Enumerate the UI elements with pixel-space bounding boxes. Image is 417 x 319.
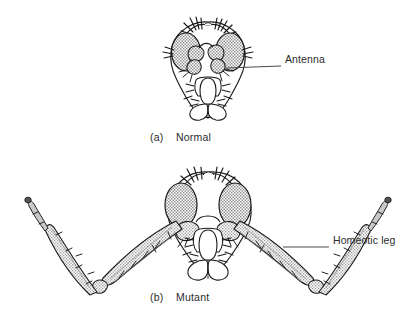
proboscis-mutant xyxy=(199,230,217,260)
panel-caption-normal: (a)Normal xyxy=(150,131,211,143)
panel-caption-mutant: (b)Mutant xyxy=(150,291,209,303)
panel-normal xyxy=(163,17,281,120)
labellum-left-mutant xyxy=(188,260,208,280)
panel-name-mutant: Mutant xyxy=(176,291,209,303)
proboscis-normal xyxy=(200,78,216,104)
compound-eye-left-mutant xyxy=(165,183,197,227)
figure-root: Antenna Homeotic leg (a)Normal (b)Mutant xyxy=(0,0,417,319)
drosophila-head-figure xyxy=(0,0,417,319)
panel-name-normal: Normal xyxy=(176,131,211,143)
compound-eye-right-mutant xyxy=(219,183,251,227)
callout-label-antenna: Antenna xyxy=(285,53,325,65)
panel-index-mutant: (b) xyxy=(150,291,176,303)
panel-index-normal: (a) xyxy=(150,131,176,143)
callout-label-homeotic-leg: Homeotic leg xyxy=(333,234,395,246)
panel-mutant xyxy=(25,167,391,295)
